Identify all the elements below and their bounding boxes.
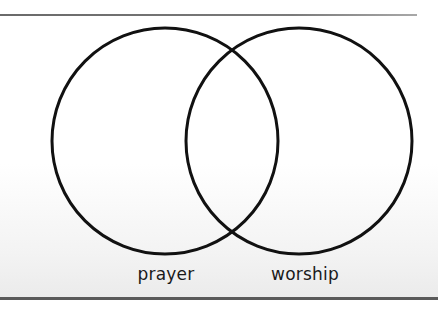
set-circle-prayer — [52, 28, 278, 254]
set-label-worship: worship — [271, 264, 339, 284]
set-circle-worship — [186, 28, 412, 254]
bottom-margin — [0, 300, 438, 309]
venn-diagram — [0, 0, 438, 309]
set-label-prayer: prayer — [138, 264, 195, 284]
